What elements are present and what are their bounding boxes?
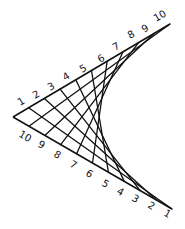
top-arm-labels: 12345678910 [16,8,169,108]
bottom-label-5: 5 [100,177,111,190]
connector-line-3 [60,89,140,191]
string-art-diagram: 12345678910 10987654321 [0,0,185,229]
top-label-4: 4 [61,70,72,83]
bottom-label-8: 8 [52,148,63,161]
top-label-3: 3 [46,80,57,93]
bottom-label-2: 2 [146,199,157,212]
bottom-label-4: 4 [115,185,126,198]
top-label-7: 7 [111,40,122,53]
bottom-label-1: 1 [162,207,173,220]
connector-line-4 [76,80,125,182]
top-label-8: 8 [126,28,137,41]
bottom-label-6: 6 [84,167,95,180]
top-label-1: 1 [16,95,27,108]
top-label-10: 10 [152,8,169,24]
bottom-label-7: 7 [68,158,79,171]
bottom-label-10: 10 [17,128,34,144]
bottom-label-3: 3 [130,192,141,205]
bottom-label-9: 9 [36,138,47,151]
top-label-9: 9 [140,22,151,35]
connector-line-6 [93,61,108,163]
envelope-figure: 12345678910 10987654321 [0,0,185,229]
top-label-2: 2 [31,88,42,101]
